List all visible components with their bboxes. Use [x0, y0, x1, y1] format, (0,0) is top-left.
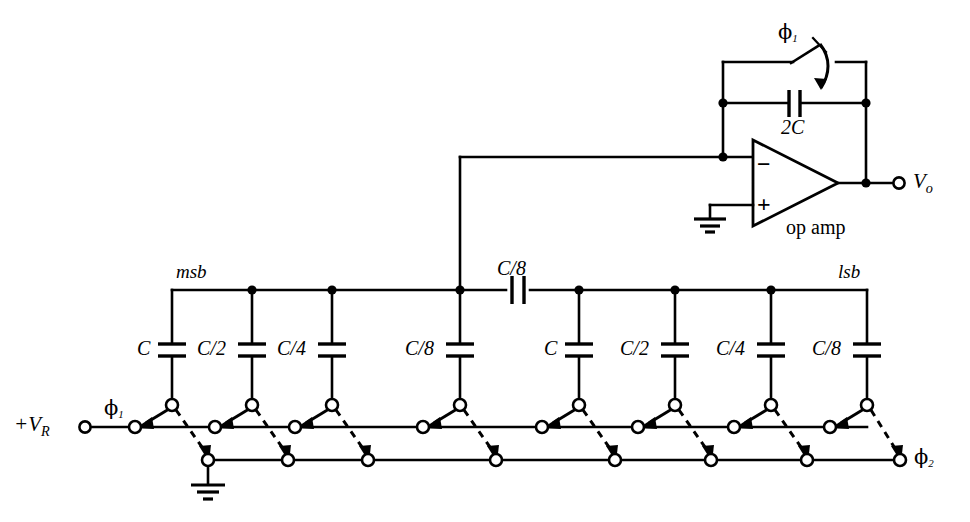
switch-6-ref-contact[interactable] [728, 421, 740, 433]
capacitor-branch-5 [661, 290, 689, 399]
switch-7-gnd-arm[interactable] [871, 410, 896, 450]
switch-7[interactable] [824, 399, 906, 466]
switch-4-ref-contact[interactable] [536, 421, 548, 433]
capacitor-array-top-rail [172, 276, 867, 304]
switch-3-pivot[interactable] [454, 399, 466, 411]
circuit-figure: ϕ1 2C − + op amp Vo msb lsb C/8 C C/2 C/… [0, 0, 970, 522]
capacitor-branch-1 [238, 290, 266, 399]
switch-7-ref-contact[interactable] [824, 421, 836, 433]
schematic-svg [0, 0, 970, 522]
switch-bank [129, 399, 906, 466]
junction-dot-output [861, 178, 870, 187]
capacitor-label-7: C/8 [812, 338, 841, 358]
switch-7-gnd-contact[interactable] [894, 454, 906, 466]
feedback-capacitor-label: 2C [781, 117, 804, 137]
switch-5[interactable] [632, 399, 717, 466]
switch-3-gnd-contact[interactable] [490, 454, 502, 466]
switch-4-pivot[interactable] [573, 399, 585, 411]
reference-terminal-label: +VR [14, 414, 50, 438]
switch-1[interactable] [209, 399, 294, 466]
switch-2[interactable] [289, 399, 374, 466]
coupling-capacitor-label: C/8 [497, 258, 526, 278]
switch-7-pivot[interactable] [861, 399, 873, 411]
capacitor-branch-3 [446, 290, 474, 399]
reference-input-terminal[interactable] [79, 421, 90, 432]
switch-4-gnd-contact[interactable] [609, 454, 621, 466]
capacitor-branches [158, 290, 881, 399]
capacitor-label-5: C/2 [620, 338, 649, 358]
capacitor-label-0: C [137, 338, 150, 358]
capacitor-label-2: C/4 [277, 338, 306, 358]
opamp-name-label: op amp [786, 217, 845, 237]
switch-6-pivot[interactable] [765, 399, 777, 411]
opamp-noninverting-sign: + [757, 192, 771, 216]
switch-2-ref-contact[interactable] [289, 421, 301, 433]
msb-label: msb [176, 262, 207, 281]
ground-rail-phase-label: ϕ2 [914, 447, 934, 469]
capacitor-branch-7 [853, 290, 881, 399]
switch-3-ref-contact[interactable] [417, 421, 429, 433]
switch-5-gnd-arm[interactable] [679, 410, 707, 450]
switch-2-gnd-contact[interactable] [362, 454, 374, 466]
capacitor-label-1: C/2 [197, 338, 226, 358]
capacitor-label-3: C/8 [405, 338, 434, 358]
capacitor-branch-6 [757, 290, 785, 399]
switch-0-gnd-arm[interactable] [176, 410, 204, 450]
capacitor-label-4: C [544, 338, 557, 358]
switch-0-pivot[interactable] [166, 399, 178, 411]
switch-6-gnd-contact[interactable] [801, 454, 813, 466]
junction-dot-feedback-left [718, 98, 727, 107]
lsb-label: lsb [838, 262, 860, 281]
capacitor-branch-2 [318, 290, 346, 399]
feedback-switch-blade[interactable] [791, 46, 818, 63]
capacitor-label-6: C/4 [716, 338, 745, 358]
switch-2-pivot[interactable] [326, 399, 338, 411]
switch-1-gnd-arm[interactable] [256, 410, 284, 450]
switch-1-pivot[interactable] [246, 399, 258, 411]
capacitor-branch-4 [565, 290, 593, 399]
switch-3-gnd-arm[interactable] [464, 410, 492, 450]
switch-0[interactable] [129, 399, 214, 466]
switch-6-gnd-arm[interactable] [775, 410, 803, 450]
switch-1-gnd-contact[interactable] [282, 454, 294, 466]
reference-rail-phase-label: ϕ1 [104, 398, 124, 420]
switch-0-ref-contact[interactable] [129, 421, 141, 433]
switch-6[interactable] [728, 399, 813, 466]
feedback-switch-tick [813, 38, 826, 52]
switch-4[interactable] [536, 399, 621, 466]
switch-5-gnd-contact[interactable] [705, 454, 717, 466]
feedback-switch-phase-label: ϕ1 [778, 22, 798, 44]
junction-dot-feedback-right [861, 98, 870, 107]
switch-2-gnd-arm[interactable] [336, 410, 364, 450]
capacitor-branch-0 [158, 290, 186, 399]
feedback-switch-actuator-arrowhead [814, 78, 827, 90]
opamp-inverting-sign: − [757, 152, 771, 176]
switch-5-pivot[interactable] [669, 399, 681, 411]
output-terminal-circle[interactable] [893, 177, 904, 188]
switch-5-ref-contact[interactable] [632, 421, 644, 433]
output-terminal-label: Vo [913, 171, 933, 195]
switch-1-ref-contact[interactable] [209, 421, 221, 433]
switch-4-gnd-arm[interactable] [583, 410, 611, 450]
switch-0-gnd-contact[interactable] [202, 454, 214, 466]
switch-3[interactable] [417, 399, 502, 466]
